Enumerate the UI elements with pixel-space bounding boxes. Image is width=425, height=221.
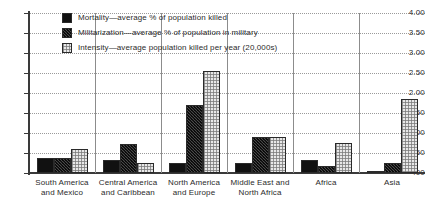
legend-item: Intensity—average population killed per … [62, 40, 277, 55]
bar-militarization [318, 166, 335, 173]
legend-item: Militarization—average % of population i… [62, 25, 277, 40]
bar-intensity [71, 149, 88, 173]
dark-speckled-swatch [62, 28, 72, 38]
light-checker-swatch [62, 43, 72, 53]
category-label-line: and Caribbean [95, 188, 161, 198]
category-label: Africa [293, 178, 359, 188]
bar-militarization [252, 137, 269, 173]
category-label-line: and Europe [161, 188, 227, 198]
chart-legend: Mortality—average % of population killed… [62, 10, 277, 55]
category-label-line: Central America [95, 178, 161, 188]
bar-mortality [103, 160, 120, 173]
bar-mortality [367, 171, 384, 173]
bar-intensity [335, 143, 352, 173]
category-label: Middle East andNorth Africa [227, 178, 293, 198]
legend-label: Mortality—average % of population killed [78, 13, 227, 22]
legend-label: Intensity—average population killed per … [78, 43, 277, 52]
bar-mortality [169, 163, 186, 173]
bar-chart: 4.003.503.002.502.001.501.00.50.00 South… [0, 0, 425, 221]
bar-mortality [235, 163, 252, 173]
bar-group [293, 13, 359, 173]
category-label-line: South America [29, 178, 95, 188]
category-label-line: North America [161, 178, 227, 188]
solid-black-swatch [62, 13, 72, 23]
bar-intensity [401, 99, 418, 173]
bar-group [359, 13, 425, 173]
bar-militarization [186, 105, 203, 173]
category-label-line: Middle East and [227, 178, 293, 188]
category-label: North Americaand Europe [161, 178, 227, 198]
legend-item: Mortality—average % of population killed [62, 10, 277, 25]
bar-intensity [137, 163, 154, 173]
legend-label: Militarization—average % of population i… [78, 28, 258, 37]
category-label: South Americaand Mexico [29, 178, 95, 198]
bar-militarization [384, 163, 401, 173]
bar-intensity [203, 71, 220, 173]
bar-militarization [54, 158, 71, 173]
category-label-line: and Mexico [29, 188, 95, 198]
bar-intensity [269, 137, 286, 173]
category-label-line: Asia [359, 178, 425, 188]
bar-mortality [301, 160, 318, 173]
category-label-line: Africa [293, 178, 359, 188]
category-label: Asia [359, 178, 425, 188]
bar-militarization [120, 144, 137, 173]
category-label: Central Americaand Caribbean [95, 178, 161, 198]
category-label-line: North Africa [227, 188, 293, 198]
bar-mortality [37, 158, 54, 173]
